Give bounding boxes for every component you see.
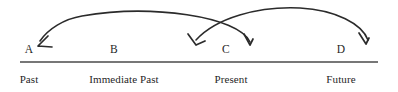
arc-future-to-immediate-past [196, 8, 368, 40]
period-label-immediate-past: Immediate Past [89, 74, 159, 85]
time-reference-diagram: A B C D Past Immediate Past Present Futu… [0, 0, 398, 92]
arrowhead-at-a [38, 36, 52, 47]
node-label-a: A [25, 44, 34, 56]
arc-present-to-past [40, 11, 250, 42]
node-label-b: B [110, 44, 118, 56]
node-label-d: D [337, 44, 346, 56]
period-label-present: Present [214, 74, 247, 85]
period-label-past: Past [20, 74, 39, 85]
arrowhead-at-d [359, 33, 369, 44]
arrowhead-right-of-c [244, 34, 253, 45]
node-label-c: C [222, 44, 230, 56]
period-label-future: Future [326, 74, 355, 85]
arrowhead-left-of-c [188, 34, 205, 45]
